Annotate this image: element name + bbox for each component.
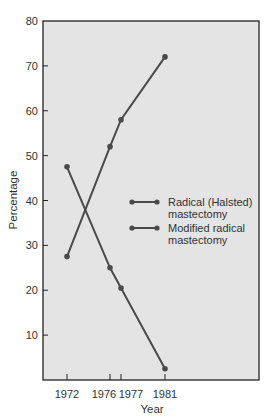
legend-label: mastectomy: [168, 208, 228, 220]
data-point: [107, 144, 113, 150]
data-point: [118, 285, 124, 291]
y-tick-label: 30: [26, 239, 38, 251]
y-tick-label: 40: [26, 195, 38, 207]
x-tick-label: 1972: [55, 388, 79, 400]
x-tick-label: 1981: [153, 388, 177, 400]
data-point: [162, 54, 168, 60]
data-point: [107, 265, 113, 271]
legend-label: Modified radical: [168, 222, 245, 234]
x-tick-label: 1977: [119, 388, 143, 400]
x-tick-label: 1976: [92, 388, 116, 400]
data-point: [64, 164, 70, 170]
legend-marker: [129, 199, 134, 204]
data-point: [118, 117, 124, 123]
y-axis-title: Percentage: [7, 171, 19, 230]
data-point: [64, 254, 70, 260]
legend-label: Radical (Halsted): [168, 196, 252, 208]
legend-label: mastectomy: [168, 234, 228, 246]
y-tick-label: 10: [26, 329, 38, 341]
y-tick-label: 20: [26, 284, 38, 296]
legend-marker: [154, 225, 159, 230]
y-tick-label: 80: [26, 15, 38, 27]
y-tick-label: 70: [26, 60, 38, 72]
legend-marker: [154, 199, 159, 204]
y-tick-label: 60: [26, 105, 38, 117]
data-point: [162, 366, 168, 372]
x-axis-title: Year: [140, 403, 163, 415]
legend-marker: [129, 225, 134, 230]
y-tick-label: 50: [26, 150, 38, 162]
line-chart: 10203040506070801972197619771981YearPerc…: [0, 0, 269, 418]
